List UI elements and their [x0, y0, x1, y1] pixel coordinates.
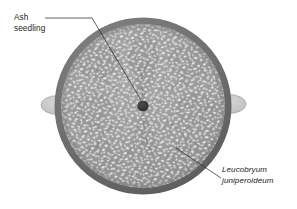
figure-canvas: Ash seedling Leucobryum juniperoideum [0, 0, 297, 209]
label-ash-seedling-line2: seedling [14, 24, 45, 35]
ash-seedling-stem-dot [137, 100, 148, 111]
label-leucobryum-juniperoideum: Leucobryum juniperoideum [222, 164, 274, 186]
label-ash-seedling-line1: Ash [14, 13, 45, 24]
label-leucobryum-line2: juniperoideum [222, 175, 274, 186]
label-ash-seedling: Ash seedling [14, 13, 45, 34]
label-leucobryum-line1: Leucobryum [222, 164, 274, 175]
